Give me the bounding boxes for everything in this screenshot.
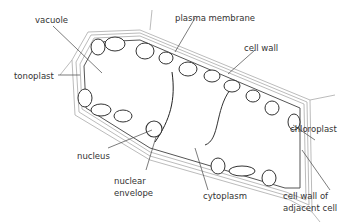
label-chloroplast: chloroplast	[290, 124, 337, 134]
label-nuclear-envelope-line2: envelope	[114, 188, 153, 198]
label-nuclear-envelope-line1: nuclear	[114, 176, 146, 186]
label-plasma-membrane: plasma membrane	[175, 13, 255, 23]
label-tonoplast: tonoplast	[14, 71, 54, 81]
label-vacuole: vacuole	[35, 15, 68, 25]
nucleus	[146, 121, 162, 137]
label-nucleus: nucleus	[77, 151, 110, 161]
label-cell-wall-adjacent-line2: adjacent cell	[283, 203, 337, 213]
label-cytoplasm: cytoplasm	[203, 191, 247, 201]
label-cell-wall: cell wall	[244, 43, 278, 53]
label-cell-wall-adjacent-line1: cell wall of	[283, 191, 328, 201]
